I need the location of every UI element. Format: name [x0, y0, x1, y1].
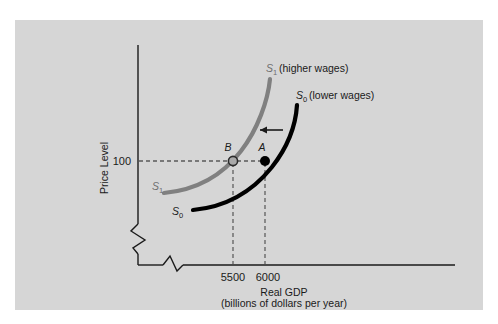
- curve-s0: [193, 105, 297, 210]
- chart-svg: B A S 1 (higher wages) S 0 (lower wages)…: [0, 0, 498, 324]
- curve-endlabel-s1-group: S 1: [152, 180, 163, 195]
- y-axis-break-icon: [131, 224, 145, 254]
- curve-label-s0-sub: 0: [303, 95, 307, 104]
- x-tick-label-6000: 6000: [256, 271, 280, 283]
- curve-label-s1-main: S: [266, 62, 273, 74]
- curve-endlabel-s1-main: S: [152, 180, 159, 192]
- curve-label-s1-note: (higher wages): [279, 62, 348, 74]
- curve-endlabel-s0-group: S 0: [172, 205, 183, 220]
- curve-endlabel-s1-sub: 1: [159, 186, 163, 195]
- curve-label-s1-group: S 1 (higher wages): [266, 62, 348, 77]
- x-tick-label-5500: 5500: [221, 271, 245, 283]
- y-axis: [131, 45, 145, 265]
- x-axis-break-icon: [163, 256, 183, 271]
- curve-endlabel-s0-main: S: [172, 205, 179, 217]
- curve-label-s0-group: S 0 (lower wages): [296, 89, 374, 104]
- data-point-a: [260, 156, 270, 166]
- y-axis-title: Price Level: [98, 142, 110, 194]
- curve-endlabel-s0-sub: 0: [179, 211, 183, 220]
- x-axis-subtitle: (billions of dollars per year): [221, 297, 347, 309]
- x-axis: [138, 256, 455, 271]
- shift-arrow-icon: [260, 127, 283, 134]
- figure-container: B A S 1 (higher wages) S 0 (lower wages)…: [0, 0, 498, 324]
- guide-lines: [139, 161, 267, 264]
- curve-label-s0-note: (lower wages): [309, 89, 374, 101]
- y-tick-label-100: 100: [113, 155, 131, 167]
- curve-label-s0-main: S: [296, 89, 303, 101]
- data-point-b: [228, 156, 237, 165]
- curve-label-s1-sub: 1: [273, 68, 277, 77]
- point-label-b: B: [224, 141, 231, 153]
- point-label-a: A: [257, 141, 265, 153]
- curve-s1: [164, 79, 270, 193]
